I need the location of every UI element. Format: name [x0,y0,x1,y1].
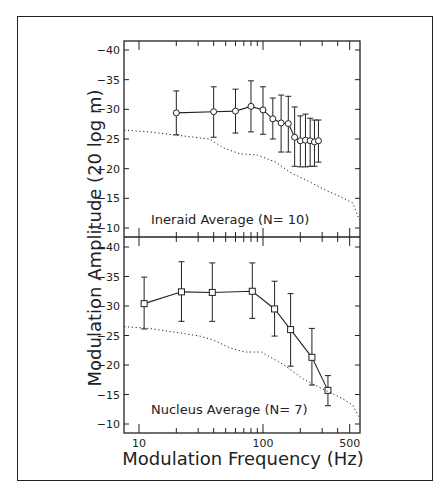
y-tick-label: −15 [97,389,120,402]
y-axis-title: Modulation Amplitude (20 log m) [84,90,105,387]
square-marker-icon [249,288,255,294]
chart-svg: 10100500 −40−35−30−25−20−15−10Ineraid Av… [0,0,444,498]
square-marker-icon [209,289,215,295]
circle-marker-icon [260,107,266,113]
panel-label-nucleus: Nucleus Average (N= 7) [151,402,308,417]
circle-marker-icon [248,103,254,109]
reference-dotted-line [124,130,359,220]
data-line [144,291,328,390]
square-marker-icon [272,306,278,312]
circle-marker-icon [232,108,238,114]
circle-marker-icon [315,138,321,144]
circle-marker-icon [278,120,284,126]
square-marker-icon [309,354,315,360]
circle-marker-icon [292,134,298,140]
y-tick-label: −40 [97,44,120,57]
circle-marker-icon [285,121,291,127]
circle-marker-icon [211,109,217,115]
circle-marker-icon [173,110,179,116]
square-marker-icon [288,327,294,333]
panel-ineraid: −40−35−30−25−20−15−10Ineraid Average (N=… [97,41,360,237]
x-axis-title: Modulation Frequency (Hz) [122,448,363,469]
panel-nucleus: −40−35−30−25−20−15−10Nucleus Average (N=… [97,237,360,433]
square-marker-icon [178,289,184,295]
y-tick-label: −35 [97,74,120,87]
panel-label-ineraid: Ineraid Average (N= 10) [151,212,309,227]
square-marker-icon [141,301,147,307]
y-tick-label: −10 [97,418,120,431]
circle-marker-icon [270,116,276,122]
